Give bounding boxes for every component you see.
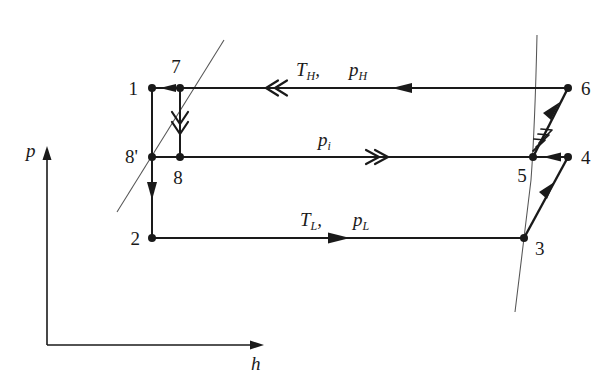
point-label-7: 7 <box>171 56 181 77</box>
point-dot-8 <box>176 153 184 161</box>
point-dot-7 <box>176 84 184 92</box>
label-pi-sub: i <box>328 139 331 153</box>
svg-text:pi: pi <box>316 129 331 153</box>
label-pL-sub: L <box>362 219 370 233</box>
point-label-8prime: 8' <box>125 146 138 167</box>
ph-diagram-canvas: p h <box>0 0 609 376</box>
point-label-4: 4 <box>581 147 591 168</box>
label-pi-base: p <box>316 129 328 150</box>
svg-text:pL: pL <box>351 209 370 233</box>
arrow-3-to-4-upright <box>539 182 555 199</box>
point-label-1: 1 <box>129 78 139 99</box>
point-dot-6 <box>564 84 572 92</box>
label-low-pressure: TL, pL <box>300 209 370 233</box>
ph-diagram-figure: p h <box>0 0 609 376</box>
point-dot-8prime <box>148 153 156 161</box>
arrow-7-to-1-left <box>160 84 176 92</box>
arrow-4-to-5-left <box>543 153 561 162</box>
label-top-separator: , <box>315 59 320 80</box>
point-dot-4 <box>564 153 572 161</box>
point-label-8: 8 <box>173 167 183 188</box>
arrow-bottom-line-solid-right <box>328 233 350 244</box>
label-pH-sub: H <box>358 69 369 83</box>
point-label-3: 3 <box>535 238 545 259</box>
arrow-1-to-2-down <box>147 182 157 200</box>
label-pL-base: p <box>351 209 363 230</box>
label-bottom-separator: , <box>317 209 322 230</box>
svg-text:TH,: TH, <box>296 59 320 83</box>
label-intermediate-pressure: pi <box>316 129 331 153</box>
p-axis-label: p <box>24 140 36 161</box>
arrow-top-line-solid-left <box>392 83 412 93</box>
point-dot-1 <box>148 84 156 92</box>
label-high-pressure: TH, pH <box>296 59 369 83</box>
process-labels-group: TH, pH pi TL, pL <box>296 59 370 233</box>
point-dot-5 <box>529 153 537 161</box>
point-label-5: 5 <box>517 165 527 186</box>
point-label-2: 2 <box>131 228 141 249</box>
h-axis-arrowhead <box>250 341 264 350</box>
h-axis-label: h <box>251 353 261 374</box>
point-dot-3 <box>520 234 528 242</box>
point-label-6: 6 <box>581 78 591 99</box>
axes-group <box>43 146 265 350</box>
svg-text:TL,: TL, <box>300 209 322 233</box>
label-pH-base: p <box>347 59 359 80</box>
point-dot-2 <box>148 234 156 242</box>
p-axis-arrowhead <box>43 146 52 160</box>
svg-text:pH: pH <box>347 59 369 83</box>
